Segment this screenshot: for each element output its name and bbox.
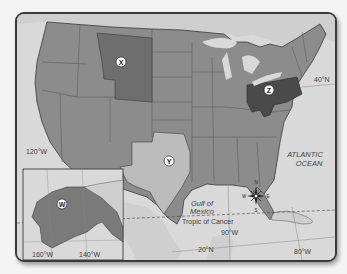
compass-n: N	[254, 180, 257, 185]
svg-text:Z: Z	[267, 87, 272, 94]
marker-y[interactable]: Y	[164, 156, 174, 166]
marker-z[interactable]: Z	[264, 85, 274, 95]
lon-80-label: 80°W	[294, 248, 312, 255]
lon-120-label: 120°W	[26, 148, 47, 155]
atlantic-label-2: OCEAN	[296, 159, 323, 168]
lat-20-label: 20°N	[198, 246, 214, 253]
svg-text:X: X	[119, 59, 124, 66]
inset-lon-160-label: 160°W	[32, 251, 53, 258]
inset-lon-140-label: 140°W	[79, 251, 100, 258]
marker-w[interactable]: W	[57, 199, 67, 209]
alaska-inset	[23, 169, 123, 260]
marker-x[interactable]: X	[116, 57, 126, 67]
map-frame: N S E W ATLANTIC OCEAN Gulf of Mexico Tr…	[15, 12, 337, 262]
svg-text:Y: Y	[167, 158, 172, 165]
compass-e: E	[266, 194, 269, 199]
gulf-label-2: Mexico	[190, 207, 214, 216]
compass-s: S	[254, 208, 257, 213]
lon-90-label: 90°W	[221, 229, 239, 236]
svg-text:W: W	[59, 201, 66, 208]
tropic-label: Tropic of Cancer	[182, 218, 234, 226]
lat-40-label: 40°N	[314, 76, 330, 83]
atlantic-label-1: ATLANTIC	[286, 150, 323, 159]
us-map: N S E W ATLANTIC OCEAN Gulf of Mexico Tr…	[17, 14, 335, 260]
